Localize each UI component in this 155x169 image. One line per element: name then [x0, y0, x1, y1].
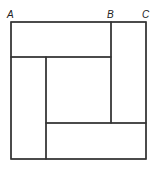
outer-square [11, 22, 146, 159]
point-label-a: A [7, 10, 14, 20]
pinwheel-square-diagram: A B C [0, 0, 155, 169]
point-label-b: B [107, 10, 114, 20]
diagram-canvas [0, 0, 155, 169]
left-rectangle [11, 57, 46, 159]
bottom-rectangle [46, 123, 146, 159]
top-rectangle [11, 22, 111, 57]
right-rectangle [111, 22, 146, 123]
center-square [46, 57, 111, 123]
point-label-c: C [142, 10, 149, 20]
